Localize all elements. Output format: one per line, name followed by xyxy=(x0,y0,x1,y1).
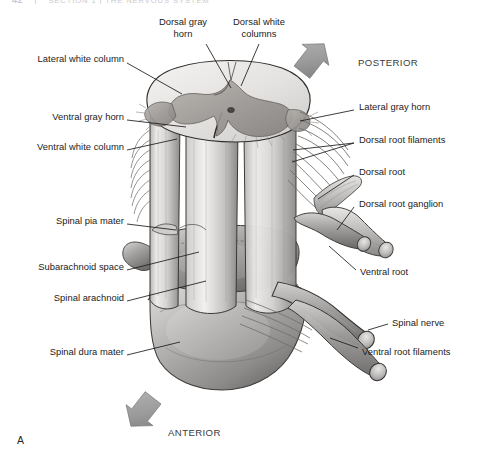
label-dorsal-root: Dorsal root xyxy=(359,166,405,178)
leader-dorsal-root-filaments xyxy=(293,143,354,150)
label-ventral-root: Ventral root xyxy=(360,266,408,278)
label-lateral-gray-horn: Lateral gray horn xyxy=(359,101,430,113)
spinal-cord-body xyxy=(150,116,296,314)
label-ventral-white-column: Ventral white column xyxy=(0,141,124,153)
arachnoid-left-bulge xyxy=(123,242,154,271)
label-spinal-arachnoid: Spinal arachnoid xyxy=(0,292,124,304)
figure-page: 42 | SECTION 1 | THE NERVOUS SYSTEM xyxy=(0,0,479,462)
label-dorsal-root-ganglion: Dorsal root ganglion xyxy=(359,198,443,210)
label-dorsal-gray-horn: Dorsal gray horn xyxy=(148,16,218,39)
leader-dorsal-root-filaments-2 xyxy=(292,143,354,162)
label-subarachnoid-space: Subarachnoid space xyxy=(0,261,124,273)
label-spinal-nerve: Spinal nerve xyxy=(392,317,444,329)
label-ventral-root-filaments: Ventral root filaments xyxy=(362,346,451,358)
label-lateral-white-column: Lateral white column xyxy=(0,53,124,65)
spinal-cord-illustration xyxy=(0,0,479,462)
direction-label-posterior: POSTERIOR xyxy=(358,57,418,68)
leader-spinal-nerve xyxy=(368,324,388,330)
label-dorsal-root-filaments: Dorsal root filaments xyxy=(359,134,445,146)
label-ventral-gray-horn: Ventral gray horn xyxy=(0,111,124,123)
leader-ventral-root xyxy=(329,246,356,270)
label-spinal-dura-mater: Spinal dura mater xyxy=(0,346,124,358)
central-canal xyxy=(228,107,235,112)
label-spinal-pia-mater: Spinal pia mater xyxy=(0,215,124,227)
label-dorsal-white-columns: Dorsal white columns xyxy=(222,16,296,39)
direction-label-anterior: ANTERIOR xyxy=(168,427,221,438)
ventral-root-filaments-shape xyxy=(131,130,151,222)
arrow-down-left-icon xyxy=(118,387,167,436)
panel-letter: A xyxy=(17,434,24,446)
